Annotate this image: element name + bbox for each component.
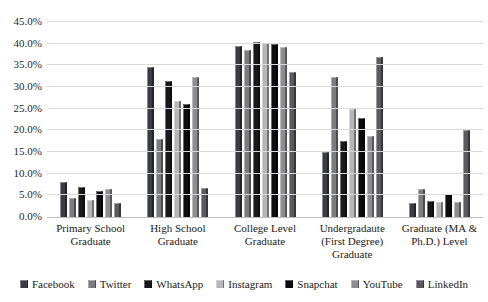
bar-twitter — [418, 189, 425, 217]
legend: FacebookTwitterWhatsAppInstagramSnapchat… — [0, 278, 488, 290]
bar-linkedin — [201, 188, 208, 217]
gridline — [47, 173, 483, 174]
bar-youtube — [192, 77, 199, 217]
legend-label: Twitter — [100, 278, 132, 290]
legend-label: Facebook — [32, 278, 75, 290]
gridline — [47, 86, 483, 87]
bar-whatsapp — [427, 201, 434, 217]
y-tick-label: 15.0% — [0, 146, 42, 157]
legend-label: YouTube — [363, 278, 403, 290]
x-axis-labels: Primary School GraduateHigh School Gradu… — [47, 222, 483, 261]
legend-swatch-icon — [20, 280, 28, 288]
gridline — [47, 108, 483, 109]
legend-item-snapchat: Snapchat — [285, 278, 337, 290]
legend-label: Snapchat — [297, 278, 337, 290]
legend-label: Instagram — [228, 278, 272, 290]
legend-swatch-icon — [216, 280, 224, 288]
bar-instagram — [349, 109, 356, 217]
bar-youtube — [454, 202, 461, 217]
x-category-label: High School Graduate — [134, 222, 221, 261]
bar-facebook — [409, 203, 416, 217]
bar-instagram — [174, 101, 181, 217]
legend-item-linkedin: LinkedIn — [416, 278, 468, 290]
y-axis: 0.0%5.0%10.0%15.0%20.0%25.0%30.0%35.0%40… — [0, 22, 42, 217]
legend-item-twitter: Twitter — [88, 278, 132, 290]
bar-youtube — [367, 136, 374, 217]
legend-item-youtube: YouTube — [351, 278, 403, 290]
y-tick-label: 45.0% — [0, 16, 42, 27]
bar-whatsapp — [165, 81, 172, 218]
y-tick-label: 0.0% — [0, 211, 42, 222]
x-category-label: Graduate (MA & Ph.D.) Level — [396, 222, 483, 261]
y-tick-label: 5.0% — [0, 189, 42, 200]
bar-instagram — [87, 200, 94, 217]
bar-twitter — [244, 50, 251, 217]
y-tick-label: 30.0% — [0, 81, 42, 92]
x-category-label: Undergradaute (First Degree) Graduate — [309, 222, 396, 261]
bar-linkedin — [114, 203, 121, 217]
bar-group — [309, 22, 396, 217]
bar-group — [47, 22, 134, 217]
x-category-label: College Level Graduate — [221, 222, 308, 261]
y-tick-label: 20.0% — [0, 124, 42, 135]
bar-twitter — [331, 77, 338, 217]
legend-label: LinkedIn — [428, 278, 468, 290]
gridline — [47, 21, 483, 22]
plot-area — [47, 22, 483, 217]
bar-twitter — [69, 198, 76, 218]
bar-chart: 0.0%5.0%10.0%15.0%20.0%25.0%30.0%35.0%40… — [0, 0, 488, 302]
y-tick-label: 25.0% — [0, 103, 42, 114]
bar-group — [221, 22, 308, 217]
gridline — [47, 151, 483, 152]
legend-swatch-icon — [285, 280, 293, 288]
gridline — [47, 194, 483, 195]
bar-linkedin — [463, 130, 470, 217]
bar-youtube — [280, 47, 287, 217]
bar-whatsapp — [340, 141, 347, 217]
y-tick-label: 35.0% — [0, 59, 42, 70]
bar-groups — [47, 22, 483, 217]
bar-youtube — [105, 189, 112, 217]
legend-item-facebook: Facebook — [20, 278, 75, 290]
bar-instagram — [436, 202, 443, 217]
bar-facebook — [322, 152, 329, 217]
bar-facebook — [235, 46, 242, 217]
bar-linkedin — [376, 57, 383, 217]
legend-item-whatsapp: WhatsApp — [144, 278, 203, 290]
bar-snapchat — [358, 118, 365, 217]
y-tick-label: 10.0% — [0, 168, 42, 179]
bar-group — [396, 22, 483, 217]
x-axis-line — [47, 217, 483, 218]
legend-swatch-icon — [416, 280, 424, 288]
legend-label: WhatsApp — [156, 278, 203, 290]
bar-group — [134, 22, 221, 217]
gridline — [47, 43, 483, 44]
legend-item-instagram: Instagram — [216, 278, 272, 290]
x-category-label: Primary School Graduate — [47, 222, 134, 261]
gridline — [47, 64, 483, 65]
legend-swatch-icon — [144, 280, 152, 288]
bar-whatsapp — [78, 187, 85, 217]
gridline — [47, 129, 483, 130]
legend-swatch-icon — [351, 280, 359, 288]
bar-snapchat — [183, 104, 190, 217]
legend-swatch-icon — [88, 280, 96, 288]
bar-facebook — [60, 182, 67, 217]
bar-snapchat — [445, 194, 452, 217]
y-tick-label: 40.0% — [0, 38, 42, 49]
